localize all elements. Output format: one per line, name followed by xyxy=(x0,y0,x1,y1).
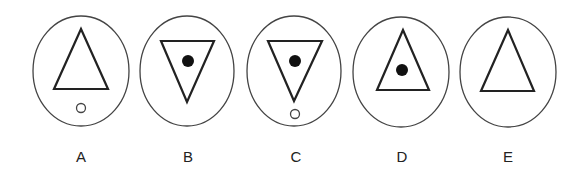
triangle-up-icon xyxy=(54,29,108,89)
option-d-figure[interactable] xyxy=(353,17,449,127)
option-b-label: B xyxy=(173,148,203,165)
triangle-down-icon xyxy=(161,41,214,102)
option-c-label: C xyxy=(281,148,311,165)
triangle-up-icon xyxy=(377,30,429,90)
ellipse-icon xyxy=(460,17,556,127)
option-e-figure[interactable] xyxy=(460,17,556,127)
option-a-label: A xyxy=(66,148,96,165)
filled-dot-icon xyxy=(289,55,301,67)
ellipse-icon xyxy=(33,16,129,126)
small-hollow-circle-icon xyxy=(77,104,86,113)
triangle-down-icon xyxy=(268,41,322,101)
filled-dot-icon xyxy=(396,64,408,76)
option-c-figure[interactable] xyxy=(247,16,341,126)
triangle-up-icon xyxy=(481,30,534,91)
option-d-label: D xyxy=(387,148,417,165)
option-e-label: E xyxy=(493,148,523,165)
option-b-figure[interactable] xyxy=(140,16,234,126)
small-hollow-circle-icon xyxy=(291,110,300,119)
option-a-figure[interactable] xyxy=(33,16,129,126)
filled-dot-icon xyxy=(182,55,194,67)
ellipse-icon xyxy=(140,16,234,126)
